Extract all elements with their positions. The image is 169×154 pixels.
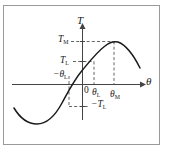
tick-label-theta-lim-sub: L [97, 92, 101, 98]
tick-label-theta-max-base: θ [110, 89, 115, 99]
guide-tl [73, 62, 94, 85]
x-axis [12, 82, 146, 88]
figure-root: T θ TM TL −θL 0 θL θM −TL [0, 0, 169, 154]
tick-label-neg-t-lim: −TL [91, 100, 106, 110]
x-axis-label: θ [146, 76, 151, 87]
tick-label-neg-theta-lim-sub: L [64, 74, 68, 80]
tick-label-neg-theta-lim-base: −θ [53, 69, 64, 79]
tick-label-t-lim-sub: L [65, 60, 69, 66]
plot-canvas [0, 0, 169, 154]
tick-label-neg-t-lim-base: −T [91, 99, 103, 109]
origin-label: 0 [84, 86, 89, 96]
tick-label-t-max: TM [58, 35, 69, 45]
tick-label-theta-max: θM [110, 90, 120, 100]
guide-tm [71, 42, 114, 85]
tick-label-theta-max-sub: M [115, 94, 120, 100]
tick-label-theta-lim: θL [92, 88, 100, 98]
tick-label-neg-theta-lim: −θL [53, 70, 68, 80]
curve-t-theta [14, 42, 140, 124]
y-axis-label: T [77, 15, 83, 26]
tick-label-theta-lim-base: θ [92, 87, 97, 97]
tick-label-neg-t-lim-sub: L [103, 104, 107, 110]
tick-label-t-lim: TL [60, 56, 69, 66]
tick-label-t-max-sub: M [63, 39, 68, 45]
